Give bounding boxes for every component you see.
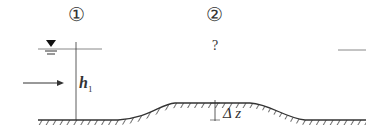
section-1-label: ① (68, 3, 85, 26)
unknown-depth-label: ? (212, 38, 218, 54)
water-level-symbol-icon (45, 40, 57, 54)
depth-label: h1 (79, 74, 92, 94)
hump-dimension (210, 100, 220, 121)
channel-bed (38, 103, 366, 125)
flow-arrow-icon (23, 80, 64, 86)
depth-label-main: h (79, 74, 88, 91)
depth-label-sub: 1 (88, 84, 93, 94)
section-2-label: ② (206, 3, 223, 26)
channel-diagram (0, 0, 386, 130)
hump-height-label: Δ z (223, 105, 241, 122)
